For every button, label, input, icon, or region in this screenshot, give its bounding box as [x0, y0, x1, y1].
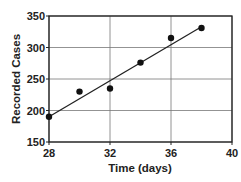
y-axis-title: Recorded Cases	[10, 34, 22, 124]
x-axis-title: Time (days)	[108, 162, 172, 174]
scatter-chart: 150200250300350 28323640 Time (days) Rec…	[0, 0, 241, 182]
data-point	[137, 59, 143, 65]
data-point	[107, 85, 113, 91]
x-tick-label: 40	[226, 147, 238, 159]
grid-lines	[49, 16, 232, 142]
y-tick-label: 200	[27, 105, 45, 117]
x-tick-label: 32	[104, 147, 116, 159]
data-point	[76, 88, 82, 94]
x-axis-ticks: 28323640	[43, 142, 238, 159]
x-tick-label: 28	[43, 147, 55, 159]
best-fit-line	[49, 27, 202, 117]
y-tick-label: 300	[27, 42, 45, 54]
data-point	[198, 25, 204, 31]
x-tick-label: 36	[165, 147, 177, 159]
data-point	[46, 114, 52, 120]
y-tick-label: 250	[27, 73, 45, 85]
trend-line	[49, 27, 202, 117]
data-point	[168, 35, 174, 41]
y-axis-ticks: 150200250300350	[27, 10, 49, 148]
y-tick-label: 350	[27, 10, 45, 22]
